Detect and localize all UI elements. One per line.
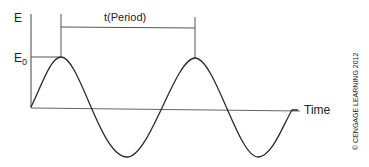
x-axis [31, 108, 300, 111]
amplitude-label-sub: 0 [22, 57, 27, 67]
amplitude-label: E0 [14, 51, 27, 67]
x-axis-label: Time [304, 103, 331, 117]
y-axis-label: E [14, 11, 22, 25]
period-label: t(Period) [104, 11, 146, 23]
diagram-canvas: E E0 t(Period) Time © CENGAGE LEARNING 2… [0, 0, 369, 167]
period-bracket-bar [61, 27, 195, 28]
copyright-text: © CENGAGE LEARNING 2012 [352, 53, 359, 150]
sine-wave-diagram: E E0 t(Period) Time © CENGAGE LEARNING 2… [0, 0, 369, 167]
amplitude-label-main: E [14, 51, 22, 65]
sine-wave-curve [31, 57, 298, 157]
